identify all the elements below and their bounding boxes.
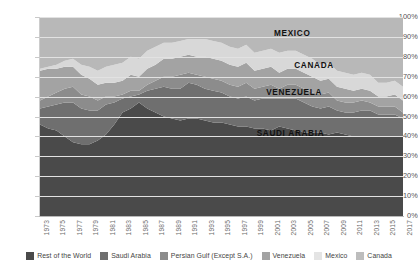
x-axis-tick-label: 1987 <box>158 220 165 235</box>
gridline <box>40 37 403 38</box>
gridline <box>40 156 403 157</box>
band-label-mexico: MEXICO <box>274 29 311 38</box>
x-axis-tick-label: 1975 <box>59 220 66 235</box>
legend-item[interactable]: Saudi Arabia <box>100 251 151 260</box>
gridline <box>40 176 403 177</box>
x-axis-tick-label: 1979 <box>92 220 99 235</box>
x-axis-tick-label: 1977 <box>76 220 83 235</box>
y-axis-tick-mark <box>35 17 39 18</box>
x-axis-tick-label: 1997 <box>241 220 248 235</box>
y-axis-tick-mark <box>35 216 39 217</box>
gridline <box>40 17 403 18</box>
legend-swatch-icon <box>100 252 108 260</box>
legend-item[interactable]: Persian Gulf (Except S.A.) <box>160 251 253 260</box>
x-axis-tick-label: 2007 <box>323 220 330 235</box>
band-label-venezuela: VENEZUELA <box>266 88 322 97</box>
y-axis-tick-mark <box>35 156 39 157</box>
legend-swatch-icon <box>26 252 34 260</box>
x-axis-tick-label: 1983 <box>125 220 132 235</box>
legend-swatch-icon <box>262 252 270 260</box>
x-axis-tick-label: 2005 <box>307 220 314 235</box>
legend-item-label: Venezuela <box>273 251 306 260</box>
gridline <box>40 97 403 98</box>
y-axis-tick-mark <box>35 176 39 177</box>
band-label-canada: CANADA <box>294 60 334 69</box>
legend-item-label: Rest of the World <box>37 251 91 260</box>
x-axis-tick-label: 1985 <box>142 220 149 235</box>
plot-area <box>40 17 403 216</box>
legend-item-label: Mexico <box>325 251 347 260</box>
x-axis-tick-label: 1973 <box>43 220 50 235</box>
y-axis-tick-mark <box>35 37 39 38</box>
y-axis-tick-mark <box>35 117 39 118</box>
chart-legend: Rest of the WorldSaudi ArabiaPersian Gul… <box>0 251 418 260</box>
legend-swatch-icon <box>160 252 168 260</box>
legend-swatch-icon <box>314 252 322 260</box>
legend-item-label: Canada <box>367 251 391 260</box>
y-axis-tick-mark <box>35 196 39 197</box>
y-axis-tick-mark <box>35 97 39 98</box>
gridline <box>40 57 403 58</box>
x-axis-tick-label: 2011 <box>356 220 363 235</box>
x-axis-tick-label: 2001 <box>274 220 281 235</box>
legend-item-label: Persian Gulf (Except S.A.) <box>171 251 253 260</box>
x-axis-tick-label: 2009 <box>340 220 347 235</box>
x-axis-tick-label: 1995 <box>224 220 231 235</box>
y-axis-tick-mark <box>35 136 39 137</box>
legend-item[interactable]: Mexico <box>314 251 347 260</box>
x-axis-tick-label: 1989 <box>175 220 182 235</box>
legend-item[interactable]: Rest of the World <box>26 251 91 260</box>
gridline <box>40 117 403 118</box>
y-axis-tick-mark <box>35 57 39 58</box>
gridline <box>40 196 403 197</box>
gridline <box>40 136 403 137</box>
x-axis-tick-label: 1991 <box>191 220 198 235</box>
x-axis-tick-label: 2017 <box>406 220 413 235</box>
x-axis-tick-label: 1981 <box>109 220 116 235</box>
gridline <box>40 77 403 78</box>
x-axis-tick-label: 1999 <box>257 220 264 235</box>
x-axis-tick-label: 2015 <box>389 220 396 235</box>
x-axis-tick-label: 2013 <box>373 220 380 235</box>
x-axis-tick-label: 1993 <box>208 220 215 235</box>
chart-container: 0%10%20%30%40%50%60%70%80%90%100% 197319… <box>0 0 418 274</box>
legend-item[interactable]: Canada <box>356 251 391 260</box>
band-label-saudi-arabia: SAUDI ARABIA <box>257 129 325 138</box>
y-axis-tick-mark <box>35 77 39 78</box>
x-axis-line <box>39 216 404 217</box>
legend-swatch-icon <box>356 252 364 260</box>
legend-item-label: Saudi Arabia <box>111 251 151 260</box>
x-axis-tick-label: 2003 <box>290 220 297 235</box>
legend-item[interactable]: Venezuela <box>262 251 306 260</box>
